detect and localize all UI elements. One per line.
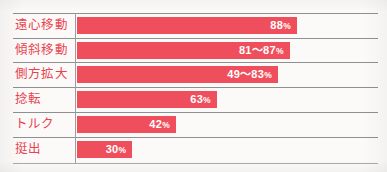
chart-row[interactable]: 傾斜移動 81〜87%	[0, 38, 387, 63]
bar-value-teishutsu: 30%	[106, 144, 132, 155]
bar-track: 42%	[77, 116, 378, 133]
bar-value-sokuho-kakudai: 49〜83%	[227, 69, 278, 80]
bar-value-keisha-ido: 81〜87%	[239, 45, 290, 56]
chart-rows: 遠心移動 88% 傾斜移動 81〜87% 側方拡大 49〜83%	[0, 0, 387, 172]
bar-enshin-ido[interactable]: 88%	[77, 17, 297, 34]
horizontal-bar-chart: 遠心移動 88% 傾斜移動 81〜87% 側方拡大 49〜83%	[0, 0, 387, 172]
row-label-teishutsu: 挺出	[15, 137, 73, 162]
bar-track: 63%	[77, 91, 378, 108]
row-label-nenten: 捻転	[15, 87, 73, 112]
bar-track: 30%	[77, 141, 378, 158]
bar-track: 49〜83%	[77, 66, 378, 83]
bar-keisha-ido[interactable]: 81〜87%	[77, 42, 290, 59]
chart-row[interactable]: トルク 42%	[0, 112, 387, 137]
chart-row[interactable]: 遠心移動 88%	[0, 13, 387, 38]
vertical-axis-line	[75, 13, 76, 163]
bar-track: 81〜87%	[77, 42, 378, 59]
bar-teishutsu[interactable]: 30%	[77, 141, 132, 158]
chart-row[interactable]: 捻転 63%	[0, 87, 387, 112]
row-label-sokuho-kakudai: 側方拡大	[15, 62, 73, 87]
bar-value-enshin-ido: 88%	[270, 20, 296, 31]
row-divider-bottom	[13, 163, 378, 164]
chart-row[interactable]: 側方拡大 49〜83%	[0, 62, 387, 87]
bar-track: 88%	[77, 17, 378, 34]
row-label-keisha-ido: 傾斜移動	[15, 38, 73, 63]
bar-nenten[interactable]: 63%	[77, 91, 217, 108]
bar-value-torque: 42%	[149, 119, 175, 130]
bar-value-nenten: 63%	[190, 94, 216, 105]
row-label-torque: トルク	[15, 112, 73, 137]
row-label-enshin-ido: 遠心移動	[15, 13, 73, 38]
bar-torque[interactable]: 42%	[77, 116, 176, 133]
chart-row[interactable]: 挺出 30%	[0, 137, 387, 162]
bar-sokuho-kakudai[interactable]: 49〜83%	[77, 66, 278, 83]
